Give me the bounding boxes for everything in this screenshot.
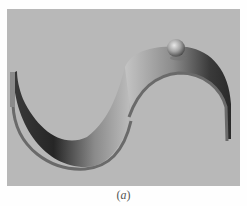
ball-shadow bbox=[170, 56, 188, 61]
figure: (a) bbox=[0, 0, 247, 206]
figure-caption: (a) bbox=[0, 188, 247, 203]
left-end-cap bbox=[10, 72, 15, 107]
ball bbox=[167, 39, 185, 57]
rendered-scene bbox=[7, 9, 240, 186]
caption-close-paren: ) bbox=[127, 188, 131, 202]
s-curve-track-illustration bbox=[7, 9, 240, 186]
left-arc-surface bbox=[13, 67, 129, 167]
